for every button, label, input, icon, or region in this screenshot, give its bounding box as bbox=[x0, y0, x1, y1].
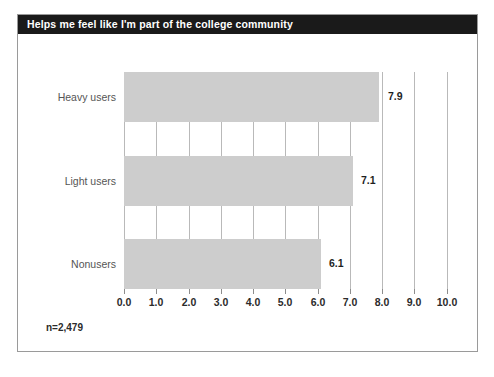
xtick-4 bbox=[253, 289, 254, 294]
gridline-8 bbox=[382, 72, 383, 289]
category-label-heavy-users: Heavy users bbox=[24, 91, 116, 103]
xtick-7 bbox=[350, 289, 351, 294]
xtick-5 bbox=[285, 289, 286, 294]
plot-area: Heavy users Light users Nonusers 7.9 7.1… bbox=[18, 34, 477, 351]
value-label-heavy-users: 7.9 bbox=[388, 90, 403, 102]
gridline-9 bbox=[414, 72, 415, 289]
xtick-label-10: 10.0 bbox=[427, 296, 467, 308]
bar-nonusers bbox=[124, 239, 321, 289]
xtick-3 bbox=[221, 289, 222, 294]
xtick-8 bbox=[382, 289, 383, 294]
xtick-6 bbox=[318, 289, 319, 294]
xtick-10 bbox=[447, 289, 448, 294]
value-label-light-users: 7.1 bbox=[361, 174, 376, 186]
value-label-nonusers: 6.1 bbox=[329, 257, 344, 269]
gridline-10 bbox=[447, 72, 448, 289]
xtick-9 bbox=[414, 289, 415, 294]
page-title: Helps me feel like I'm part of the colle… bbox=[27, 18, 293, 30]
chart-figure: Helps me feel like I'm part of the colle… bbox=[17, 14, 478, 352]
category-label-nonusers: Nonusers bbox=[24, 258, 116, 270]
xtick-2 bbox=[189, 289, 190, 294]
category-label-light-users: Light users bbox=[24, 175, 116, 187]
chart-title-bar: Helps me feel like I'm part of the colle… bbox=[18, 15, 477, 34]
xtick-1 bbox=[156, 289, 157, 294]
sample-size-annotation: n=2,479 bbox=[46, 322, 83, 333]
xtick-0 bbox=[124, 289, 125, 294]
bar-light-users bbox=[124, 156, 353, 206]
bar-heavy-users bbox=[124, 72, 379, 122]
